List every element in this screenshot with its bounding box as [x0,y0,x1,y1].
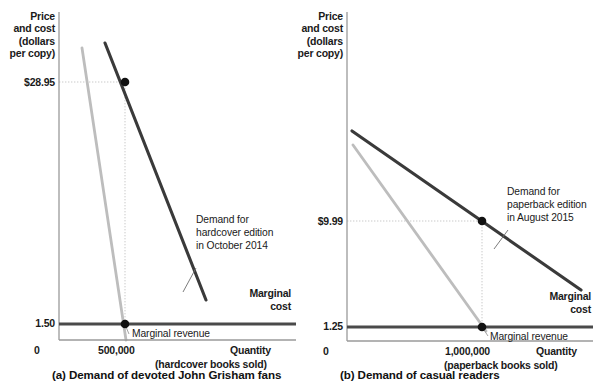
marginal-cost-label-line-1: Marginal [181,287,291,300]
panel-caption-b: (b) Demand of casual readers [340,368,500,381]
y-axis-title-line-1: Price [296,10,343,22]
y-axis-title-line-1: Price [0,10,55,22]
demand-curve-a [105,43,206,300]
x-axis-title-a: Quantity [230,344,271,356]
demand-annotation-a: Demand for hardcover edition in October … [196,213,273,253]
x-axis-title-b: Quantity [536,345,577,357]
y-tick-price-a: $28.95 [0,76,55,88]
demand-annotation-line-3: in August 2015 [507,211,587,224]
y-axis-title-line-3: (dollars [296,35,343,47]
y-tick-marginal-cost-b: 1.25 [296,320,343,332]
demand-annotation-b: Demand for paperback edition in August 2… [507,185,587,225]
marginal-revenue-label-b: Marginal revenue [490,331,568,342]
price-point-dot-a [121,78,130,87]
y-axis-title-line-4: per copy) [296,47,343,59]
quantity-point-dot-a [121,320,130,329]
y-axis-title-line-4: per copy) [0,47,55,59]
marginal-revenue-label-a: Marginal revenue [132,328,210,339]
panel-caption-a: (a) Demand of devoted John Grisham fans [52,368,281,381]
quantity-point-dot-b [478,323,487,332]
marginal-cost-label-b: Marginal cost [481,290,591,315]
price-point-dot-b [478,217,487,226]
demand-annotation-line-2: paperback edition [507,198,587,211]
marginal-revenue-curve-a [82,48,126,340]
y-axis-title-line-2: and cost [296,22,343,34]
chart-panel-a: Price and cost (dollars per copy) $28.95… [0,0,296,391]
y-axis-title-b: Price and cost (dollars per copy) [296,10,343,60]
y-tick-marginal-cost-a: 1.50 [0,317,55,329]
origin-label-a: 0 [34,344,40,356]
demand-annotation-line-2: hardcover edition [196,226,273,239]
y-tick-price-b: $9.99 [296,215,343,227]
marginal-cost-label-a: Marginal cost [181,287,291,312]
x-tick-quantity-a: 500,000 [98,344,135,356]
demand-annotation-line-3: in October 2014 [196,239,273,252]
marginal-cost-label-line-2: cost [181,300,291,313]
marginal-cost-label-line-1: Marginal [481,290,591,303]
marginal-revenue-curve-b [353,145,486,331]
demand-annotation-line-1: Demand for [507,185,587,198]
y-axis-title-a: Price and cost (dollars per copy) [0,10,55,60]
x-tick-quantity-b: 1,000,000 [445,345,490,357]
y-axis-title-line-2: and cost [0,22,55,34]
marginal-cost-label-line-2: cost [481,303,591,316]
demand-annotation-line-1: Demand for [196,213,273,226]
marginal-revenue-label-leader-a [126,327,129,334]
origin-label-b: 0 [323,345,329,357]
y-axis-title-line-3: (dollars [0,35,55,47]
chart-panel-b: Price and cost (dollars per copy) $9.99 … [296,0,592,391]
